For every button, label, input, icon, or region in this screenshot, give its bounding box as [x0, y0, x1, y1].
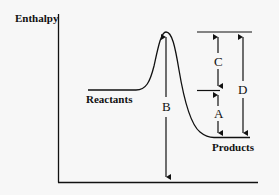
energy-diagram: Enthalpy Reactants Products B C A D: [0, 0, 279, 195]
arrow-d-label: D: [238, 83, 247, 96]
products-label: Products: [212, 142, 254, 153]
arrow-b-label: B: [162, 100, 171, 113]
reaction-curve: [88, 32, 250, 138]
y-axis-label: Enthalpy: [15, 13, 58, 24]
arrow-c-label: C: [214, 55, 223, 68]
reactants-label: Reactants: [86, 94, 132, 105]
arrow-a-label: A: [214, 107, 223, 120]
